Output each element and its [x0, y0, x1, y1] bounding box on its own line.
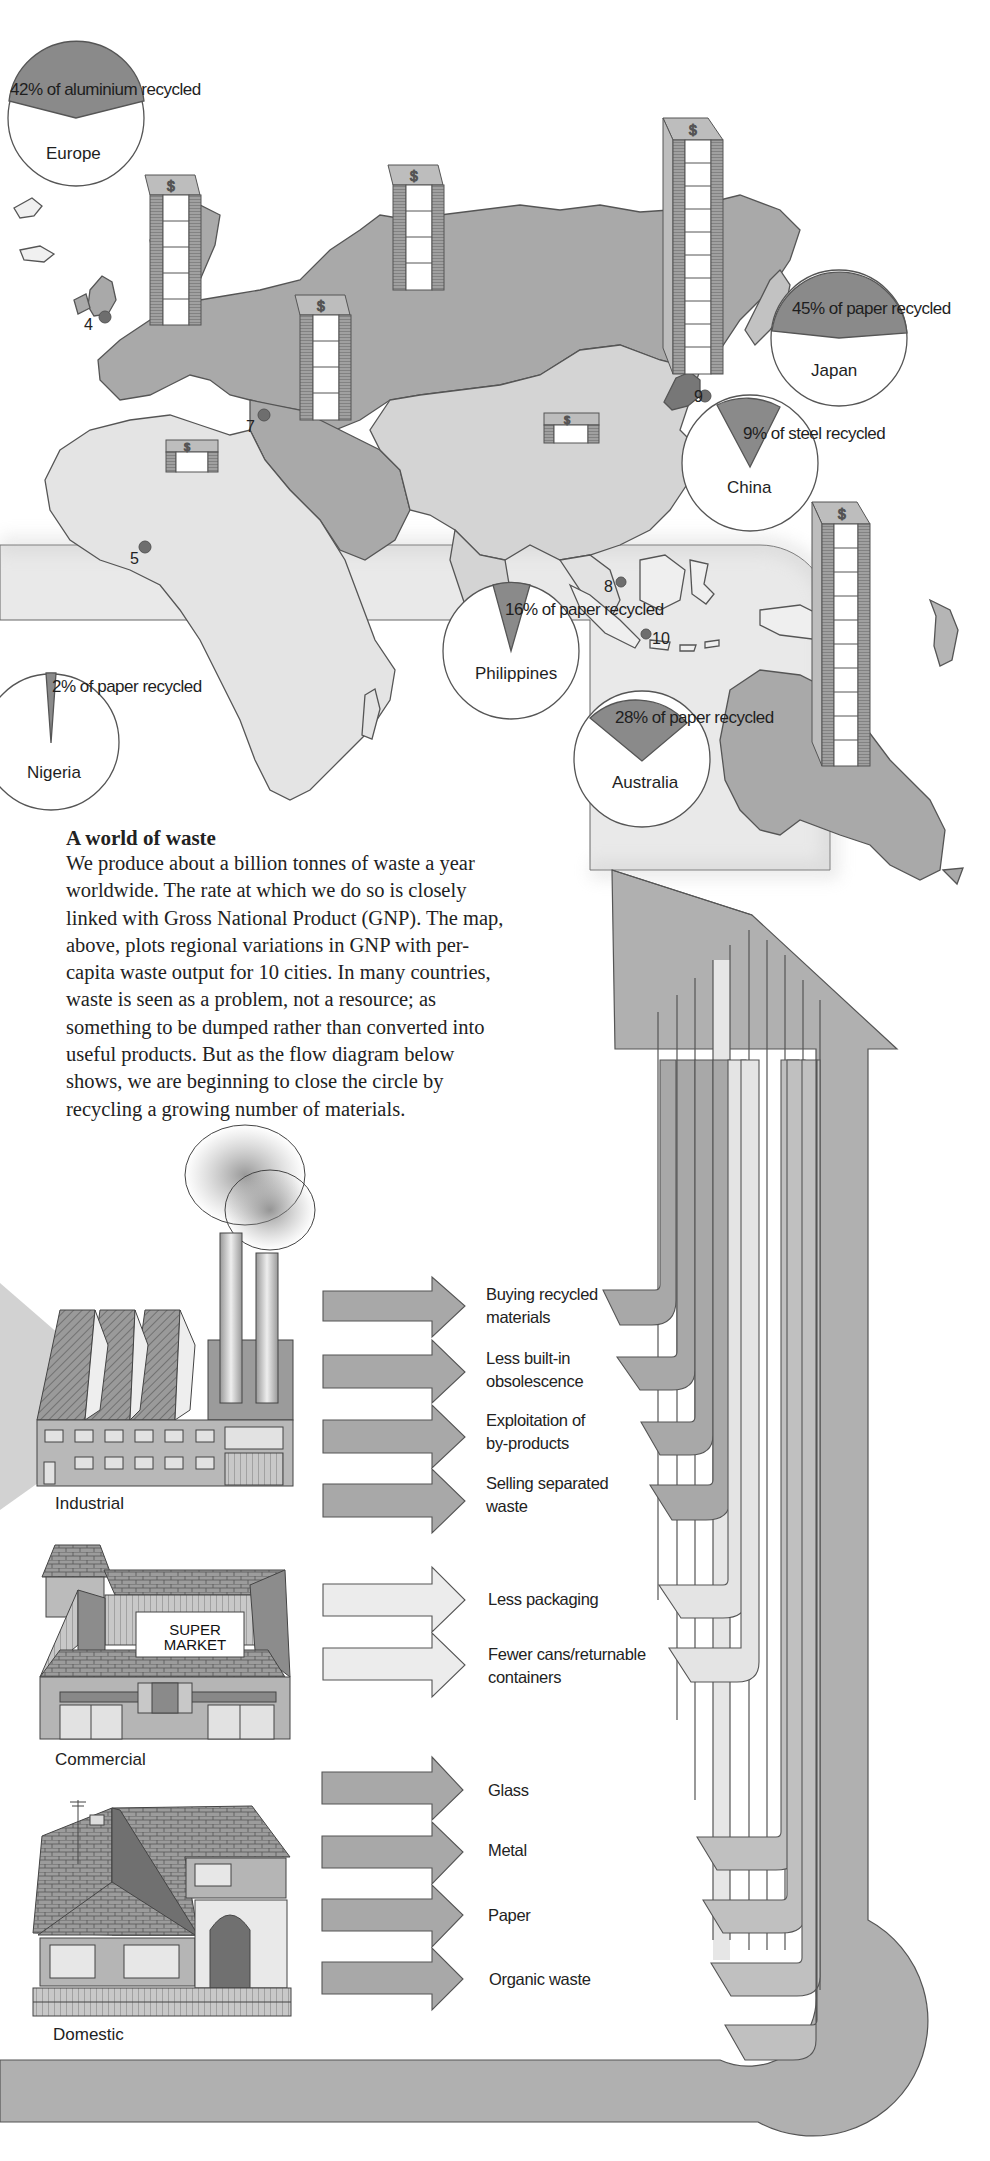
source-label-industrial: Industrial	[55, 1494, 124, 1514]
article-title: A world of waste	[66, 826, 506, 850]
svg-text:$: $	[838, 506, 846, 522]
pie-label-philippines: 16% of paper recycled	[505, 600, 664, 620]
pie-country-nigeria: Nigeria	[27, 763, 81, 783]
city-marker-9: 9	[694, 388, 703, 406]
svg-text:$: $	[167, 178, 175, 194]
svg-text:$: $	[410, 168, 418, 184]
pie-label-nigeria: 2% of paper recycled	[52, 677, 202, 697]
article-body: We produce about a billion tonnes of was…	[66, 850, 506, 1123]
pie-country-philippines: Philippines	[475, 664, 557, 684]
flow-label-line: Selling separated	[486, 1472, 608, 1495]
flow-label-line: Exploitation of	[486, 1409, 585, 1432]
sign-line-2: MARKET	[150, 1637, 240, 1652]
flow-label-fewer-cans: Fewer cans/returnable containers	[488, 1643, 646, 1689]
flow-label-line: containers	[488, 1666, 646, 1689]
flow-label-buying-recycled: Buying recycled materials	[486, 1283, 598, 1329]
city-marker-10: 10	[652, 630, 670, 648]
source-label-domestic: Domestic	[53, 2025, 124, 2045]
svg-text:$: $	[564, 414, 570, 426]
flow-label-selling-waste: Selling separated waste	[486, 1472, 608, 1518]
sign-line-1: SUPER	[150, 1622, 240, 1637]
svg-text:$: $	[184, 441, 190, 453]
pie-label-china: 9% of steel recycled	[743, 424, 885, 444]
flow-label-less-obsolescence: Less built-in obsolescence	[486, 1347, 583, 1393]
city-marker-8: 8	[604, 578, 613, 596]
svg-text:$: $	[317, 298, 325, 314]
pie-country-australia: Australia	[612, 773, 678, 793]
flow-label-by-products: Exploitation of by-products	[486, 1409, 585, 1455]
flow-label-line: obsolescence	[486, 1370, 583, 1393]
city-marker-4: 4	[84, 316, 93, 334]
flow-label-line: Buying recycled	[486, 1283, 598, 1306]
house-illustration	[33, 1800, 291, 2016]
pie-label-japan: 45% of paper recycled	[792, 299, 951, 319]
flow-label-paper: Paper	[488, 1904, 531, 1927]
flow-label-metal: Metal	[488, 1839, 527, 1862]
pie-label-europe: 42% of aluminium recycled	[10, 80, 201, 100]
pie-country-europe: Europe	[46, 144, 101, 164]
return-hooks	[603, 1060, 820, 2060]
pie-label-australia: 28% of paper recycled	[615, 708, 774, 728]
factory-illustration	[0, 1125, 315, 1510]
flow-label-line: materials	[486, 1306, 598, 1329]
flow-label-line: Fewer cans/returnable	[488, 1643, 646, 1666]
article: A world of waste We produce about a bill…	[66, 826, 506, 1123]
city-marker-5: 5	[130, 550, 139, 568]
flow-label-line: waste	[486, 1495, 608, 1518]
flow-arrows	[322, 1277, 465, 2010]
supermarket-sign: SUPER MARKET	[150, 1622, 240, 1652]
flow-label-line: Less packaging	[488, 1588, 598, 1611]
flow-label-organic-waste: Organic waste	[489, 1968, 591, 1991]
flow-label-line: Less built-in	[486, 1347, 583, 1370]
svg-text:$: $	[689, 122, 697, 138]
source-label-commercial: Commercial	[55, 1750, 146, 1770]
flow-label-glass: Glass	[488, 1779, 529, 1802]
flow-label-less-packaging: Less packaging	[488, 1588, 598, 1611]
flow-label-line: by-products	[486, 1432, 585, 1455]
pie-country-japan: Japan	[811, 361, 857, 381]
city-marker-7: 7	[246, 418, 255, 436]
pie-country-china: China	[727, 478, 771, 498]
